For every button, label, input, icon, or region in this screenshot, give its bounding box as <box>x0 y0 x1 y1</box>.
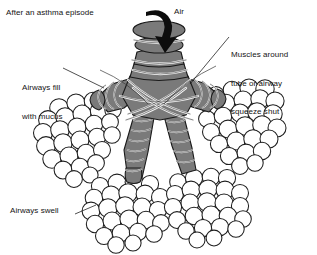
label-muscles-squeeze-shut: Muscles around tube or airway squeeze sh… <box>231 31 288 126</box>
cartilage-ring-1 <box>133 21 185 39</box>
label-mucus-line-1: Airways fill <box>22 83 63 93</box>
label-airways-swell: Airways swell <box>10 206 59 216</box>
label-air: Air <box>174 7 184 17</box>
label-airways-fill-with-mucus: Airways fill with mucus <box>22 64 63 131</box>
page-title: After an asthma episode <box>6 8 94 18</box>
label-muscles-line-2: tube or airway <box>231 79 288 89</box>
label-muscles-line-3: squeeze shut <box>231 107 288 117</box>
label-mucus-line-2: with mucus <box>22 112 63 122</box>
label-muscles-line-1: Muscles around <box>231 50 288 60</box>
